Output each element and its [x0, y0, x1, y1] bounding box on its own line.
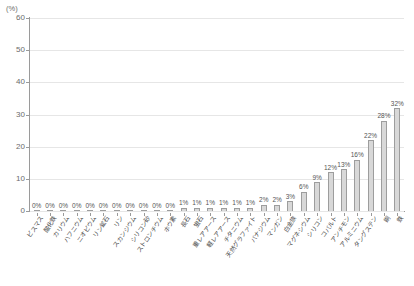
bar-slot: 1%: [204, 18, 217, 211]
bar-value-label: 0%: [125, 202, 134, 209]
y-axis-tick-label: 50: [1, 46, 25, 54]
bar[interactable]: [60, 210, 66, 211]
bar[interactable]: [328, 172, 334, 211]
bar-slot: 0%: [70, 18, 83, 211]
bar-slot: 16%: [351, 18, 364, 211]
bar-slot: 22%: [364, 18, 377, 211]
bar-value-label: 1%: [206, 199, 215, 206]
bar[interactable]: [181, 208, 187, 211]
bar-value-label: 1%: [192, 199, 201, 206]
bar[interactable]: [368, 140, 374, 211]
bar[interactable]: [287, 201, 293, 211]
bar-value-label: 9%: [312, 174, 321, 181]
bar[interactable]: [194, 208, 200, 211]
bar-slot: 12%: [324, 18, 337, 211]
bar-slot: 0%: [83, 18, 96, 211]
bar-value-label: 0%: [152, 202, 161, 209]
bar[interactable]: [221, 208, 227, 211]
bar-slot: 1%: [217, 18, 230, 211]
y-axis-unit-label: (%): [6, 4, 18, 13]
bar[interactable]: [234, 208, 240, 211]
bar[interactable]: [274, 205, 280, 211]
bar-slot: 0%: [97, 18, 110, 211]
bar-value-label: 1%: [246, 199, 255, 206]
bar-slot: 0%: [164, 18, 177, 211]
bar[interactable]: [167, 210, 173, 211]
bar[interactable]: [141, 210, 147, 211]
bar[interactable]: [301, 192, 307, 211]
bar[interactable]: [341, 169, 347, 211]
bar[interactable]: [381, 121, 387, 211]
bar-slot: 9%: [311, 18, 324, 211]
x-axis-labels-group: ビスマス酸化鉄カリウムハフニウムニオビウムリン鉱石リンスカンジウムシリコン砂スト…: [30, 213, 404, 286]
bar-slot: 13%: [337, 18, 350, 211]
bar-slot: 1%: [190, 18, 203, 211]
bar-value-label: 6%: [299, 183, 308, 190]
bar-value-label: 3%: [286, 193, 295, 200]
y-axis-tick-label: 20: [1, 143, 25, 151]
bar-value-label: 22%: [364, 132, 377, 139]
y-axis-tick-mark: [26, 211, 29, 212]
y-axis-tick-mark: [26, 18, 29, 19]
bar-value-label: 0%: [166, 202, 175, 209]
bar-value-label: 0%: [72, 202, 81, 209]
bar-value-label: 0%: [85, 202, 94, 209]
bar-slot: 0%: [137, 18, 150, 211]
bar[interactable]: [247, 208, 253, 211]
bar-slot: 2%: [257, 18, 270, 211]
bar-value-label: 0%: [99, 202, 108, 209]
bar-value-label: 2%: [272, 196, 281, 203]
bar[interactable]: [394, 108, 400, 211]
bar[interactable]: [47, 210, 53, 211]
bar[interactable]: [154, 210, 160, 211]
bar-value-label: 2%: [259, 196, 268, 203]
bar[interactable]: [74, 210, 80, 211]
bar[interactable]: [87, 210, 93, 211]
bar-slot: 0%: [124, 18, 137, 211]
bar-slot: 0%: [110, 18, 123, 211]
bar-slot: 2%: [270, 18, 283, 211]
y-axis-tick-mark: [26, 115, 29, 116]
bar-value-label: 0%: [112, 202, 121, 209]
y-axis-tick-label: 30: [1, 111, 25, 119]
gridline: [30, 211, 404, 212]
bar-value-label: 28%: [377, 112, 390, 119]
bar-value-label: 0%: [139, 202, 148, 209]
bar-value-label: 13%: [337, 161, 350, 168]
bar-slot: 3%: [284, 18, 297, 211]
bar[interactable]: [114, 210, 120, 211]
bar-chart: (%) 0102030405060 0%0%0%0%0%0%0%0%0%0%0%…: [0, 0, 414, 286]
bar-slot: 6%: [297, 18, 310, 211]
bars-group: 0%0%0%0%0%0%0%0%0%0%0%1%1%1%1%1%1%2%2%3%…: [30, 18, 404, 211]
bar-value-label: 32%: [391, 100, 404, 107]
bar-slot: 1%: [230, 18, 243, 211]
bar[interactable]: [314, 182, 320, 211]
bar-value-label: 0%: [45, 202, 54, 209]
bar-slot: 0%: [43, 18, 56, 211]
bar-value-label: 0%: [32, 202, 41, 209]
bar[interactable]: [34, 210, 40, 211]
bar-value-label: 1%: [232, 199, 241, 206]
y-axis-tick-mark: [26, 50, 29, 51]
bar-value-label: 1%: [179, 199, 188, 206]
y-axis-tick-label: 0: [1, 207, 25, 215]
bar[interactable]: [261, 205, 267, 211]
bar[interactable]: [354, 160, 360, 211]
y-axis-tick-mark: [26, 179, 29, 180]
bar-value-label: 1%: [219, 199, 228, 206]
y-axis-tick-mark: [26, 147, 29, 148]
bar[interactable]: [100, 210, 106, 211]
y-axis-tick-label: 10: [1, 175, 25, 183]
bar-slot: 0%: [150, 18, 163, 211]
bar-value-label: 12%: [324, 164, 337, 171]
bar-slot: 0%: [30, 18, 43, 211]
y-axis-tick-label: 40: [1, 78, 25, 86]
y-axis-tick-mark: [26, 82, 29, 83]
bar-slot: 0%: [57, 18, 70, 211]
bar-value-label: 0%: [59, 202, 68, 209]
bar-slot: 28%: [377, 18, 390, 211]
bar[interactable]: [127, 210, 133, 211]
bar-value-label: 16%: [351, 151, 364, 158]
bar[interactable]: [207, 208, 213, 211]
bar-slot: 1%: [177, 18, 190, 211]
